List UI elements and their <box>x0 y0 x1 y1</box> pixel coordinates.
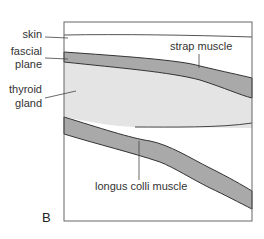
longus-colli-band <box>64 117 252 209</box>
fascial-plane-label-line2: plane <box>15 58 42 70</box>
anatomy-diagram: skin fascial plane thyroid gland strap m… <box>0 0 264 239</box>
strap-muscle-label: strap muscle <box>170 40 232 52</box>
skin-leader-line <box>45 37 68 38</box>
fascial-plane-label-line1: fascial <box>11 45 42 57</box>
skin-label: skin <box>22 28 42 40</box>
panel-letter: B <box>42 210 51 225</box>
thyroid-label-line2: gland <box>15 97 42 109</box>
thyroid-label-line1: thyroid <box>9 83 42 95</box>
skin-line <box>64 35 252 37</box>
longus-colli-label: longus colli muscle <box>95 180 187 192</box>
